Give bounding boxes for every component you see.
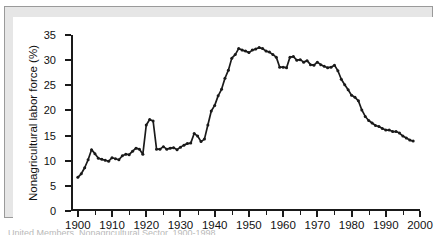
data-point-1993 <box>395 130 398 133</box>
data-point-1947 <box>237 47 240 50</box>
x-tick-1990 <box>385 211 387 217</box>
data-point-1936 <box>200 140 203 143</box>
x-tick-minor-1975 <box>334 211 335 215</box>
data-point-1957 <box>271 53 274 56</box>
data-point-1990 <box>384 129 387 132</box>
data-point-1920 <box>145 124 148 127</box>
data-point-1949 <box>244 50 247 53</box>
x-tick-1940 <box>214 211 216 217</box>
data-point-1962 <box>288 56 291 59</box>
x-tick-minor-1925 <box>163 211 164 215</box>
data-point-1927 <box>169 147 172 150</box>
y-axis-label-text: Nonagricultural labor force (%) <box>27 45 39 201</box>
x-tick-1980 <box>351 211 353 217</box>
data-point-1950 <box>247 51 250 54</box>
data-point-1933 <box>189 142 192 145</box>
data-point-1945 <box>230 57 233 60</box>
data-point-1919 <box>141 153 144 156</box>
data-point-1972 <box>323 65 326 68</box>
data-point-1918 <box>138 148 141 151</box>
data-point-1965 <box>299 58 302 61</box>
data-point-1913 <box>121 154 124 157</box>
x-tick-1960 <box>282 211 284 217</box>
data-point-1959 <box>278 66 281 69</box>
data-point-1992 <box>391 130 394 133</box>
x-tick-minor-1905 <box>95 211 96 215</box>
x-tick-1900 <box>77 211 79 217</box>
figure-root: Nonagricultural labor force (%) 05101520… <box>0 0 441 235</box>
data-point-1942 <box>220 88 223 91</box>
data-point-1958 <box>275 56 278 59</box>
data-point-1970 <box>316 61 319 64</box>
data-point-1961 <box>285 66 288 69</box>
data-point-1909 <box>107 160 110 163</box>
data-point-1931 <box>182 144 185 147</box>
data-point-1979 <box>347 88 350 91</box>
x-tick-minor-1945 <box>232 211 233 215</box>
plot-canvas: Nonagricultural labor force (%) 05101520… <box>13 17 434 221</box>
data-point-1903 <box>87 158 90 161</box>
x-tick-minor-1985 <box>369 211 370 215</box>
y-tick-label-5: 5 <box>50 180 56 191</box>
data-point-1987 <box>374 124 377 127</box>
data-point-1997 <box>408 139 411 142</box>
data-point-1995 <box>401 135 404 138</box>
y-axis-label: Nonagricultural labor force (%) <box>24 35 42 211</box>
data-point-1940 <box>213 104 216 107</box>
data-point-1975 <box>333 64 336 67</box>
data-series-line <box>71 35 420 211</box>
data-point-1983 <box>360 108 363 111</box>
y-tick-label-15: 15 <box>44 130 56 141</box>
data-point-1986 <box>371 122 374 125</box>
y-tick-label-25: 25 <box>44 80 56 91</box>
y-tick-label-20: 20 <box>44 105 56 116</box>
data-point-1901 <box>80 172 83 175</box>
data-point-1924 <box>158 148 161 151</box>
data-point-1912 <box>117 158 120 161</box>
data-point-1939 <box>210 109 213 112</box>
data-point-1905 <box>93 152 96 155</box>
data-point-1916 <box>131 150 134 153</box>
data-point-1974 <box>330 66 333 69</box>
data-point-1935 <box>196 135 199 138</box>
data-point-1956 <box>268 51 271 54</box>
data-point-1926 <box>165 148 168 151</box>
data-point-1930 <box>179 146 182 149</box>
data-point-1948 <box>241 49 244 52</box>
data-point-1989 <box>381 127 384 130</box>
data-point-1928 <box>172 146 175 149</box>
data-point-1921 <box>148 118 151 121</box>
data-point-1915 <box>128 153 131 156</box>
data-point-1969 <box>312 64 315 67</box>
data-point-1910 <box>111 156 114 159</box>
data-point-1963 <box>292 55 295 58</box>
y-tick-label-30: 30 <box>44 55 56 66</box>
data-point-1952 <box>254 48 257 51</box>
y-tick-label-0: 0 <box>50 206 56 217</box>
data-point-1966 <box>302 61 305 64</box>
data-point-1932 <box>186 142 189 145</box>
data-point-1907 <box>100 158 103 161</box>
data-point-1951 <box>251 49 254 52</box>
data-point-1955 <box>265 50 268 53</box>
data-point-1900 <box>76 176 79 179</box>
data-point-1996 <box>405 137 408 140</box>
x-tick-1930 <box>179 211 181 217</box>
data-point-1953 <box>258 46 261 49</box>
data-point-1904 <box>90 148 93 151</box>
figure-caption: United Members, Nonagricultural Sector, … <box>8 228 428 235</box>
data-point-1973 <box>326 66 329 69</box>
x-tick-2000 <box>419 211 421 217</box>
data-point-1971 <box>319 63 322 66</box>
data-point-1944 <box>227 69 230 72</box>
data-point-1923 <box>155 148 158 151</box>
data-point-1922 <box>152 119 155 122</box>
data-point-1984 <box>364 115 367 118</box>
data-point-1934 <box>193 132 196 135</box>
data-point-1908 <box>104 159 107 162</box>
data-point-1914 <box>124 153 127 156</box>
x-tick-1950 <box>248 211 250 217</box>
data-point-1968 <box>309 63 312 66</box>
data-point-1917 <box>135 147 138 150</box>
data-point-1994 <box>398 132 401 135</box>
